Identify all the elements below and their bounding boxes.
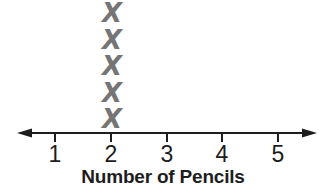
tick-label: 3 [161, 141, 174, 166]
left-arrow-icon [17, 129, 32, 138]
number-line-plot: 12XXXXX345 [0, 0, 326, 166]
x-mark: X [100, 104, 124, 134]
tick-label: 4 [216, 141, 229, 166]
right-arrow-icon [302, 129, 317, 138]
x-mark: X [100, 78, 124, 108]
tick-label: 5 [272, 141, 285, 166]
tick-label: 2 [105, 141, 118, 166]
x-mark: X [100, 0, 124, 28]
x-mark: X [100, 25, 124, 55]
x-mark: X [100, 51, 124, 81]
x-axis-label: Number of Pencils [0, 166, 326, 188]
tick-label: 1 [49, 141, 62, 166]
line-plot-figure: 12XXXXX345 Number of Pencils [0, 0, 326, 195]
